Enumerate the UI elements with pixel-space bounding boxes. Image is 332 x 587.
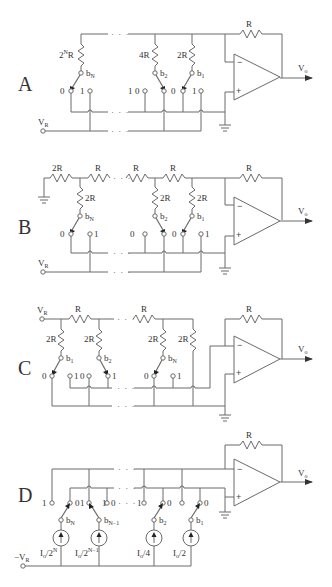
svg-text:2R: 2R: [160, 193, 171, 203]
svg-text:· · ·: · · ·: [117, 383, 136, 393]
svg-text:b2: b2: [160, 211, 168, 222]
svg-text:1: 1: [42, 498, 47, 508]
svg-text:0: 0: [144, 371, 149, 381]
panel-label-a: A: [18, 73, 33, 95]
output-label: Vo: [298, 63, 308, 74]
svg-text:Vo: Vo: [298, 468, 308, 479]
switch-bn-1[interactable]: [92, 507, 99, 518]
panel-a: A · · · R − + Vo 2NR: [18, 19, 312, 136]
panel-d: D R − + Vo · · · · · ·: [14, 430, 312, 568]
svg-text:0: 0: [130, 229, 135, 239]
svg-text:0: 0: [80, 371, 85, 381]
svg-text:bN: bN: [66, 515, 76, 526]
svg-text:1: 1: [137, 498, 142, 508]
svg-text:· · ·: · · ·: [118, 498, 137, 508]
svg-text:1: 1: [94, 229, 99, 239]
resistor-label-b1: 2R: [177, 50, 188, 60]
ground-icon: [219, 512, 231, 518]
panel-label-d: D: [18, 484, 32, 506]
ellipsis: · · ·: [111, 29, 130, 39]
svg-text:0: 0: [42, 371, 47, 381]
svg-text:· · ·: · · ·: [118, 483, 137, 493]
svg-text:0: 0: [60, 86, 65, 96]
svg-text:R: R: [133, 163, 139, 173]
svg-text:VR: VR: [38, 258, 49, 269]
svg-text:R: R: [246, 304, 252, 314]
svg-text:1: 1: [205, 229, 210, 239]
svg-text:Io/2N: Io/2N: [40, 547, 58, 559]
switch-bn[interactable]: [72, 218, 79, 230]
svg-text:1: 1: [128, 86, 133, 96]
bit-label-bn: bN: [86, 68, 96, 79]
svg-text:b1: b1: [197, 68, 205, 79]
svg-text:· · ·: · · ·: [117, 314, 136, 324]
svg-text:1: 1: [80, 86, 85, 96]
switch-bn[interactable]: [72, 75, 80, 88]
svg-text:0: 0: [167, 498, 172, 508]
ground-icon: [219, 268, 231, 274]
svg-text:R: R: [75, 304, 81, 314]
svg-text:· · ·: · · ·: [111, 126, 130, 136]
current-source-n-1: bN−1 Io/2N−1: [75, 515, 119, 566]
svg-text:−VR: −VR: [14, 552, 30, 563]
switch-b1[interactable]: [184, 75, 191, 87]
svg-text:R: R: [246, 163, 252, 173]
svg-text:0: 0: [111, 498, 116, 508]
svg-text:1: 1: [112, 371, 117, 381]
svg-text:2R: 2R: [178, 334, 189, 344]
ground-icon: [38, 197, 50, 203]
svg-text:0: 0: [135, 86, 140, 96]
svg-text:1: 1: [102, 498, 107, 508]
svg-text:+: +: [236, 230, 241, 240]
svg-text:2R: 2R: [197, 193, 208, 203]
current-source-1: b1 Io/2: [173, 515, 204, 566]
switch-b1[interactable]: [184, 218, 191, 230]
svg-text:Io/2N−1: Io/2N−1: [75, 547, 99, 559]
panel-b: B 2R R · · · R R R − + Vo: [18, 163, 312, 277]
svg-text:1: 1: [74, 371, 79, 381]
svg-text:2R: 2R: [85, 193, 96, 203]
svg-text:1: 1: [80, 498, 85, 508]
svg-text:b2: b2: [160, 68, 168, 79]
switch-b1[interactable]: [54, 360, 60, 371]
svg-text:0: 0: [172, 229, 177, 239]
svg-text:−: −: [237, 201, 242, 211]
svg-text:2R: 2R: [84, 334, 95, 344]
svg-text:−: −: [237, 464, 242, 474]
resistor-label-b2: 4R: [139, 50, 150, 60]
svg-text:b2: b2: [104, 353, 112, 364]
opamp-plus: +: [236, 86, 241, 96]
opamp-minus: −: [237, 57, 242, 67]
svg-text:bN−1: bN−1: [104, 515, 119, 526]
svg-text:2R: 2R: [46, 334, 57, 344]
svg-text:+: +: [236, 368, 241, 378]
svg-text:VR: VR: [37, 305, 48, 316]
svg-text:bN: bN: [168, 353, 178, 364]
svg-text:1: 1: [192, 86, 197, 96]
svg-text:· · ·: · · ·: [118, 464, 137, 474]
svg-text:R: R: [170, 163, 176, 173]
switch-bn[interactable]: [156, 360, 162, 371]
svg-text:· · ·: · · ·: [111, 107, 130, 117]
current-source-n: bN Io/2N: [40, 515, 76, 566]
ref-label: VR: [38, 117, 49, 128]
svg-text:2R: 2R: [52, 163, 63, 173]
svg-text:R: R: [246, 430, 252, 440]
svg-text:Vo: Vo: [298, 206, 308, 217]
svg-text:0: 0: [204, 498, 209, 508]
svg-text:R: R: [95, 163, 101, 173]
svg-text:1: 1: [177, 371, 182, 381]
svg-text:· · ·: · · ·: [117, 401, 136, 411]
svg-text:0: 0: [171, 86, 176, 96]
svg-text:−: −: [237, 340, 242, 350]
dac-circuits-figure: A · · · R − + Vo 2NR: [0, 0, 332, 587]
feedback-resistor-label: R: [246, 19, 252, 29]
svg-text:2R: 2R: [148, 334, 159, 344]
svg-text:0: 0: [60, 229, 65, 239]
svg-text:b2: b2: [159, 515, 167, 526]
svg-text:b1: b1: [66, 353, 74, 364]
svg-text:bN: bN: [85, 211, 95, 222]
svg-text:Vo: Vo: [298, 344, 308, 355]
svg-text:b1: b1: [196, 515, 204, 526]
panel-label-b: B: [18, 216, 31, 238]
